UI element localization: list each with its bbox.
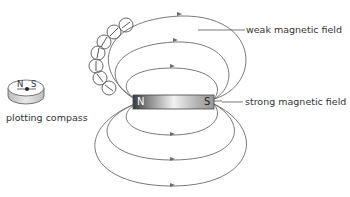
magnet-south-label: S bbox=[204, 96, 210, 107]
compass-south-label: S bbox=[31, 79, 36, 89]
strong-field-label: strong magnetic field bbox=[245, 96, 346, 107]
bar-magnet bbox=[133, 95, 214, 109]
compass-caption: plotting compass bbox=[6, 112, 88, 123]
plotting-compass bbox=[8, 80, 44, 104]
magnet-north-label: N bbox=[137, 96, 144, 107]
field-line-outer-top bbox=[108, 16, 246, 99]
compass-north-label: N bbox=[17, 79, 23, 89]
weak-field-label: weak magnetic field bbox=[246, 24, 342, 35]
